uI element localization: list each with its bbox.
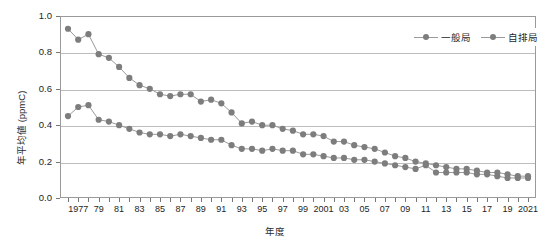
data-point	[310, 151, 316, 157]
data-point	[433, 169, 439, 175]
data-point	[177, 131, 183, 137]
data-point	[106, 118, 112, 124]
data-point	[228, 142, 234, 148]
data-point	[280, 126, 286, 132]
data-point	[525, 173, 531, 179]
chart-legend: 一般局自排局	[398, 28, 538, 46]
data-point	[504, 171, 510, 177]
data-point	[392, 162, 398, 168]
data-point	[351, 142, 357, 148]
data-point	[453, 166, 459, 172]
data-point	[361, 157, 367, 163]
data-point	[218, 137, 224, 143]
data-point	[494, 169, 500, 175]
series-line	[68, 29, 528, 176]
data-point	[147, 86, 153, 92]
data-point	[443, 169, 449, 175]
data-point	[136, 82, 142, 88]
data-point	[515, 173, 521, 179]
data-point	[96, 51, 102, 57]
data-point	[198, 135, 204, 141]
data-point	[392, 153, 398, 159]
data-point	[147, 131, 153, 137]
data-point	[167, 133, 173, 139]
data-point	[259, 122, 265, 128]
data-point	[85, 102, 91, 108]
data-point	[331, 138, 337, 144]
data-point	[126, 126, 132, 132]
data-point	[188, 133, 194, 139]
data-point	[249, 118, 255, 124]
data-point	[269, 146, 275, 152]
data-point	[372, 146, 378, 152]
legend-entry-2[interactable]: 自排局	[481, 30, 538, 44]
data-point	[249, 146, 255, 152]
legend-marker-icon	[414, 32, 438, 42]
data-point	[208, 97, 214, 103]
data-point	[382, 160, 388, 166]
data-point	[96, 117, 102, 123]
data-point	[372, 159, 378, 165]
data-point	[259, 148, 265, 154]
data-point	[300, 151, 306, 157]
data-point	[208, 137, 214, 143]
data-point	[290, 128, 296, 134]
data-point	[65, 113, 71, 119]
data-point	[75, 37, 81, 43]
data-point	[310, 131, 316, 137]
data-point	[239, 146, 245, 152]
series-2	[65, 26, 531, 180]
data-point	[126, 75, 132, 81]
data-point	[433, 162, 439, 168]
data-point	[136, 129, 142, 135]
data-point	[341, 138, 347, 144]
data-point	[188, 91, 194, 97]
data-point	[85, 31, 91, 37]
data-point	[280, 148, 286, 154]
data-point	[157, 131, 163, 137]
data-point	[167, 93, 173, 99]
data-point	[198, 98, 204, 104]
data-point	[402, 155, 408, 161]
data-point	[361, 144, 367, 150]
data-point	[402, 164, 408, 170]
data-point	[331, 155, 337, 161]
data-point	[75, 104, 81, 110]
data-point	[239, 120, 245, 126]
data-point	[116, 64, 122, 70]
legend-marker-icon	[481, 32, 505, 42]
legend-label: 一般局	[441, 30, 471, 44]
data-point	[320, 153, 326, 159]
data-point	[65, 26, 71, 32]
legend-label: 自排局	[508, 30, 538, 44]
data-point	[269, 122, 275, 128]
data-point	[106, 55, 112, 61]
data-point	[300, 131, 306, 137]
data-point	[474, 168, 480, 174]
data-point	[351, 157, 357, 163]
data-point	[320, 133, 326, 139]
chart-container: 年平均値 (ppmC) 0.00.20.40.60.81.0 197779818…	[0, 0, 549, 242]
data-point	[290, 148, 296, 154]
data-point	[412, 166, 418, 172]
x-axis-title: 年度	[0, 224, 549, 238]
data-point	[228, 109, 234, 115]
data-point	[423, 160, 429, 166]
legend-entry-1[interactable]: 一般局	[414, 30, 471, 44]
data-point	[443, 164, 449, 170]
data-point	[464, 166, 470, 172]
data-point	[177, 91, 183, 97]
data-point	[157, 91, 163, 97]
data-point	[341, 155, 347, 161]
data-point	[484, 169, 490, 175]
data-point	[218, 100, 224, 106]
data-point	[116, 122, 122, 128]
data-point	[382, 149, 388, 155]
data-point	[412, 159, 418, 165]
series-line	[68, 105, 528, 178]
